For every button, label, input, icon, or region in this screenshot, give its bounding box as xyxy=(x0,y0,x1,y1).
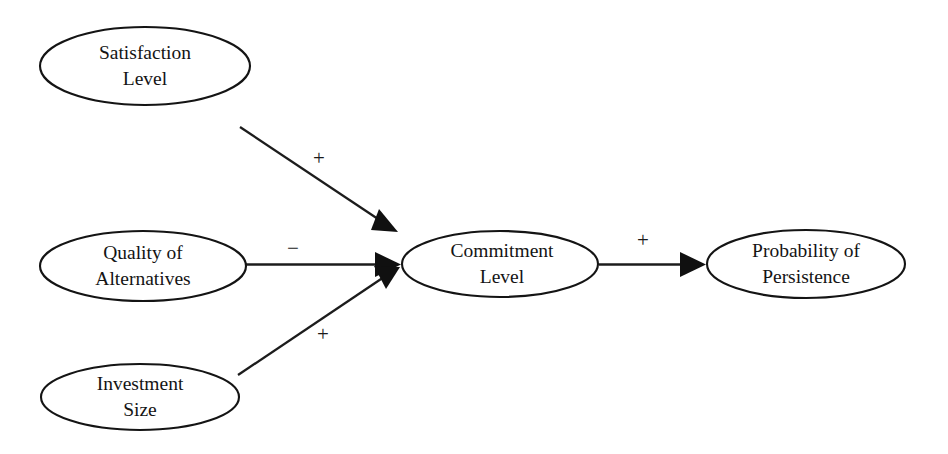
node-label-commitment-level-line1: Commitment xyxy=(451,240,555,261)
node-label-probability-of-persistence-line2: Persistence xyxy=(762,266,850,287)
edge-commitment-to-persistence: + xyxy=(599,228,706,277)
path-diagram: + − + + Satisfaction Level xyxy=(0,0,948,454)
node-label-satisfaction-level-line2: Level xyxy=(123,68,168,89)
node-label-satisfaction-level-line1: Satisfaction xyxy=(99,42,191,63)
node-label-probability-of-persistence-line1: Probability of xyxy=(752,240,860,261)
edge-sign-commitment-to-persistence: + xyxy=(637,228,649,252)
node-label-investment-size-line2: Size xyxy=(123,399,157,420)
node-quality-of-alternatives[interactable]: Quality of Alternatives xyxy=(40,231,246,301)
edge-sign-alternatives-to-commitment: − xyxy=(287,236,299,260)
arrow-head-icon-commitment-to-persistence xyxy=(680,252,706,277)
node-commitment-level[interactable]: Commitment Level xyxy=(402,231,598,297)
node-label-quality-of-alternatives-line2: Alternatives xyxy=(95,268,190,289)
edge-line-satisfaction-to-commitment xyxy=(240,127,381,221)
arrow-head-icon-satisfaction-to-commitment xyxy=(371,209,398,232)
node-shape-satisfaction-level[interactable] xyxy=(40,27,250,105)
node-label-investment-size-line1: Investment xyxy=(97,373,184,394)
arrow-head-icon-investment-to-commitment xyxy=(374,266,400,289)
node-investment-size[interactable]: Investment Size xyxy=(41,364,239,430)
node-probability-of-persistence[interactable]: Probability of Persistence xyxy=(707,230,905,298)
edge-sign-satisfaction-to-commitment: + xyxy=(313,146,325,170)
edge-sign-investment-to-commitment: + xyxy=(317,322,329,346)
edge-satisfaction-to-commitment: + xyxy=(240,127,398,232)
node-label-quality-of-alternatives-line1: Quality of xyxy=(103,242,183,263)
node-satisfaction-level[interactable]: Satisfaction Level xyxy=(40,27,250,105)
edge-line-investment-to-commitment xyxy=(238,277,384,375)
diagram-canvas: + − + + Satisfaction Level xyxy=(0,0,948,454)
node-label-commitment-level-line2: Level xyxy=(480,266,525,287)
edge-investment-to-commitment: + xyxy=(238,266,400,375)
